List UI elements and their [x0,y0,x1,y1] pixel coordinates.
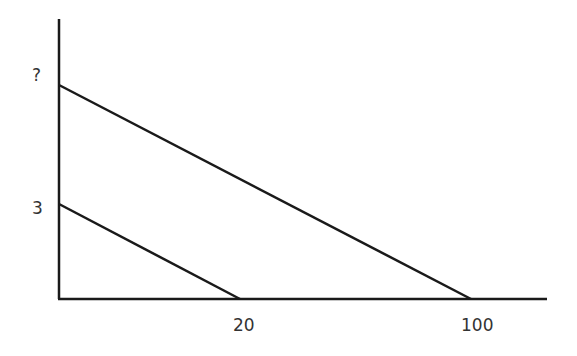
inner-line [59,204,240,299]
outer-line [59,85,471,299]
x-label-100: 100 [461,317,493,334]
x-label-20: 20 [233,317,255,334]
diagram [0,0,577,356]
y-label-3: 3 [32,200,43,217]
y-label-unknown: ? [32,67,41,84]
